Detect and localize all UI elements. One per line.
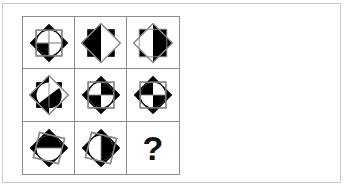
matrix-cell-r1c3[interactable] <box>127 17 179 69</box>
octagram-figure-icon <box>78 125 124 171</box>
matrix-cell-r3c2[interactable] <box>75 122 127 174</box>
octagram-figure-icon <box>78 20 124 66</box>
octagram-figure-icon <box>26 125 72 171</box>
matrix-cell-r2c1[interactable] <box>23 69 75 121</box>
octagram-figure-icon <box>78 72 124 118</box>
matrix-cell-r1c2[interactable] <box>75 17 127 69</box>
octagram-figure-icon <box>130 20 176 66</box>
octagram-figure-icon <box>130 72 176 118</box>
matrix-grid: ? <box>22 16 180 175</box>
question-mark-label: ? <box>143 131 164 165</box>
octagram-figure-icon <box>26 20 72 66</box>
matrix-cell-r3c1[interactable] <box>23 122 75 174</box>
screenshot-root: ? <box>0 0 347 190</box>
matrix-cell-r2c3[interactable] <box>127 69 179 121</box>
octagram-figure-icon <box>26 72 72 118</box>
matrix-cell-r2c2[interactable] <box>75 69 127 121</box>
puzzle-panel: ? <box>2 3 341 183</box>
matrix-cell-r1c1[interactable] <box>23 17 75 69</box>
matrix-cell-r3c3-missing[interactable]: ? <box>127 122 179 174</box>
